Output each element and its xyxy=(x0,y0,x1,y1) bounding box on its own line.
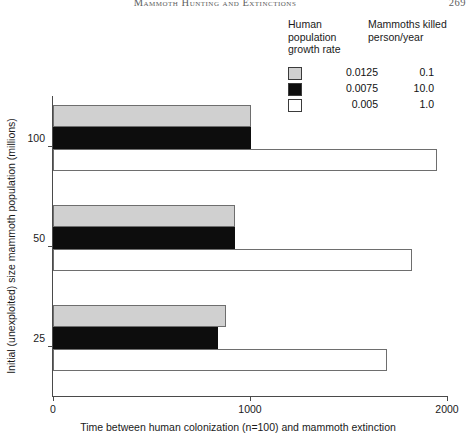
y-tick-label-100: 100 xyxy=(27,132,45,144)
figure-container: Mammoth Hunting and Extinctions 269 Huma… xyxy=(0,0,470,444)
gray-swatch-icon xyxy=(288,67,302,80)
y-tick-label-50: 50 xyxy=(33,232,45,244)
bar-100-0.0125 xyxy=(53,105,251,127)
bar-100-0.0075 xyxy=(53,127,251,149)
legend-header-mammoths-killed: Mammoths killed person/year xyxy=(368,18,464,43)
bar-50-0.005 xyxy=(53,249,412,271)
y-tick-25 xyxy=(48,346,53,347)
legend-growth-rate-1: 0.0075 xyxy=(328,82,378,94)
running-head: Mammoth Hunting and Extinctions 269 xyxy=(0,0,470,11)
legend-item-gray: 0.0125 0.1 xyxy=(288,66,468,82)
bar-25-0.0075 xyxy=(53,327,218,349)
plot-area: 1005025 010002000 Initial (unexploited) … xyxy=(53,96,447,396)
x-tick-0 xyxy=(53,396,54,401)
legend-headers: Human population growth rate Mammoths ki… xyxy=(288,18,468,58)
bar-100-0.005 xyxy=(53,149,437,171)
x-tick-label-1000: 1000 xyxy=(238,403,261,415)
page-number: 269 xyxy=(449,0,466,8)
legend-killed-1: 10.0 xyxy=(388,82,434,94)
bar-50-0.0075 xyxy=(53,227,235,249)
x-tick-1000 xyxy=(250,396,251,401)
running-head-title: Mammoth Hunting and Extinctions xyxy=(0,0,430,8)
x-tick-2000 xyxy=(447,396,448,401)
y-tick-label-25: 25 xyxy=(33,332,45,344)
y-tick-100 xyxy=(48,146,53,147)
bar-25-0.005 xyxy=(53,349,387,371)
x-tick-label-2000: 2000 xyxy=(435,403,458,415)
y-tick-50 xyxy=(48,246,53,247)
x-axis-title: Time between human colonization (n=100) … xyxy=(41,421,435,433)
legend-header-growth-rate: Human population growth rate xyxy=(288,18,364,56)
bar-25-0.0125 xyxy=(53,305,226,327)
y-axis-title: Initial (unexploited) size mammoth popul… xyxy=(5,118,17,374)
bar-50-0.0125 xyxy=(53,205,235,227)
black-swatch-icon xyxy=(288,83,302,96)
legend-killed-0: 0.1 xyxy=(388,66,434,78)
legend-growth-rate-0: 0.0125 xyxy=(328,66,378,78)
x-tick-label-0: 0 xyxy=(50,403,56,415)
